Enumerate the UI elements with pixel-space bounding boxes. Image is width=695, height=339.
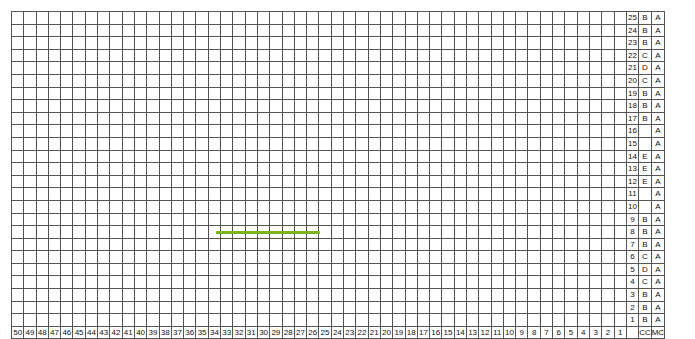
chart-cell[interactable] (257, 301, 269, 314)
chart-cell[interactable] (614, 188, 626, 201)
chart-cell[interactable] (442, 289, 454, 302)
chart-cell[interactable] (614, 263, 626, 276)
chart-cell[interactable] (528, 226, 540, 239)
chart-cell[interactable] (73, 200, 85, 213)
chart-cell[interactable] (98, 175, 110, 188)
chart-cell[interactable] (184, 213, 196, 226)
chart-cell[interactable] (430, 137, 442, 150)
chart-cell[interactable] (380, 314, 392, 327)
chart-cell[interactable] (344, 62, 356, 75)
chart-cell[interactable] (294, 314, 306, 327)
chart-cell[interactable] (147, 163, 159, 176)
chart-cell[interactable] (221, 74, 233, 87)
chart-cell[interactable] (233, 175, 245, 188)
chart-cell[interactable] (466, 301, 478, 314)
chart-cell[interactable] (85, 49, 97, 62)
chart-cell[interactable] (36, 100, 48, 113)
chart-cell[interactable] (36, 263, 48, 276)
chart-cell[interactable] (73, 263, 85, 276)
chart-cell[interactable] (589, 12, 601, 25)
chart-cell[interactable] (577, 238, 589, 251)
chart-cell[interactable] (73, 188, 85, 201)
chart-cell[interactable] (233, 301, 245, 314)
chart-cell[interactable] (245, 24, 257, 37)
chart-cell[interactable] (528, 175, 540, 188)
chart-cell[interactable] (270, 37, 282, 50)
chart-cell[interactable] (528, 137, 540, 150)
chart-cell[interactable] (393, 24, 405, 37)
chart-cell[interactable] (356, 137, 368, 150)
chart-cell[interactable] (171, 24, 183, 37)
chart-cell[interactable] (208, 150, 220, 163)
chart-cell[interactable] (466, 100, 478, 113)
chart-cell[interactable] (589, 175, 601, 188)
chart-cell[interactable] (417, 251, 429, 264)
chart-cell[interactable] (479, 276, 491, 289)
chart-cell[interactable] (368, 100, 380, 113)
chart-cell[interactable] (110, 137, 122, 150)
chart-cell[interactable] (196, 62, 208, 75)
chart-cell[interactable] (24, 289, 36, 302)
chart-cell[interactable] (171, 301, 183, 314)
chart-cell[interactable] (184, 62, 196, 75)
chart-cell[interactable] (24, 74, 36, 87)
chart-cell[interactable] (368, 112, 380, 125)
chart-cell[interactable] (12, 100, 24, 113)
chart-cell[interactable] (233, 263, 245, 276)
chart-cell[interactable] (48, 100, 60, 113)
chart-cell[interactable] (48, 301, 60, 314)
chart-cell[interactable] (516, 251, 528, 264)
chart-cell[interactable] (417, 112, 429, 125)
chart-cell[interactable] (479, 163, 491, 176)
chart-cell[interactable] (221, 150, 233, 163)
chart-cell[interactable] (159, 49, 171, 62)
chart-cell[interactable] (479, 125, 491, 138)
chart-cell[interactable] (380, 276, 392, 289)
chart-cell[interactable] (110, 213, 122, 226)
chart-cell[interactable] (540, 49, 552, 62)
chart-cell[interactable] (417, 62, 429, 75)
chart-cell[interactable] (171, 137, 183, 150)
chart-cell[interactable] (331, 74, 343, 87)
chart-cell[interactable] (73, 37, 85, 50)
chart-cell[interactable] (221, 238, 233, 251)
chart-cell[interactable] (270, 213, 282, 226)
chart-cell[interactable] (344, 74, 356, 87)
chart-cell[interactable] (134, 263, 146, 276)
chart-cell[interactable] (48, 49, 60, 62)
chart-cell[interactable] (147, 150, 159, 163)
chart-cell[interactable] (233, 150, 245, 163)
chart-cell[interactable] (208, 213, 220, 226)
chart-cell[interactable] (122, 200, 134, 213)
chart-cell[interactable] (503, 24, 515, 37)
chart-cell[interactable] (61, 314, 73, 327)
chart-cell[interactable] (85, 188, 97, 201)
chart-cell[interactable] (319, 87, 331, 100)
chart-cell[interactable] (24, 137, 36, 150)
chart-cell[interactable] (331, 263, 343, 276)
chart-cell[interactable] (208, 100, 220, 113)
chart-cell[interactable] (147, 200, 159, 213)
chart-cell[interactable] (159, 112, 171, 125)
chart-cell[interactable] (577, 175, 589, 188)
chart-cell[interactable] (85, 226, 97, 239)
chart-cell[interactable] (245, 112, 257, 125)
chart-cell[interactable] (565, 87, 577, 100)
chart-cell[interactable] (24, 100, 36, 113)
chart-cell[interactable] (540, 175, 552, 188)
chart-cell[interactable] (503, 276, 515, 289)
chart-cell[interactable] (257, 175, 269, 188)
chart-cell[interactable] (282, 112, 294, 125)
chart-cell[interactable] (380, 74, 392, 87)
chart-cell[interactable] (516, 314, 528, 327)
chart-cell[interactable] (479, 112, 491, 125)
chart-cell[interactable] (405, 137, 417, 150)
chart-cell[interactable] (589, 289, 601, 302)
chart-cell[interactable] (233, 213, 245, 226)
chart-cell[interactable] (344, 150, 356, 163)
chart-cell[interactable] (331, 175, 343, 188)
chart-cell[interactable] (294, 251, 306, 264)
chart-cell[interactable] (380, 12, 392, 25)
chart-cell[interactable] (85, 74, 97, 87)
chart-cell[interactable] (491, 226, 503, 239)
